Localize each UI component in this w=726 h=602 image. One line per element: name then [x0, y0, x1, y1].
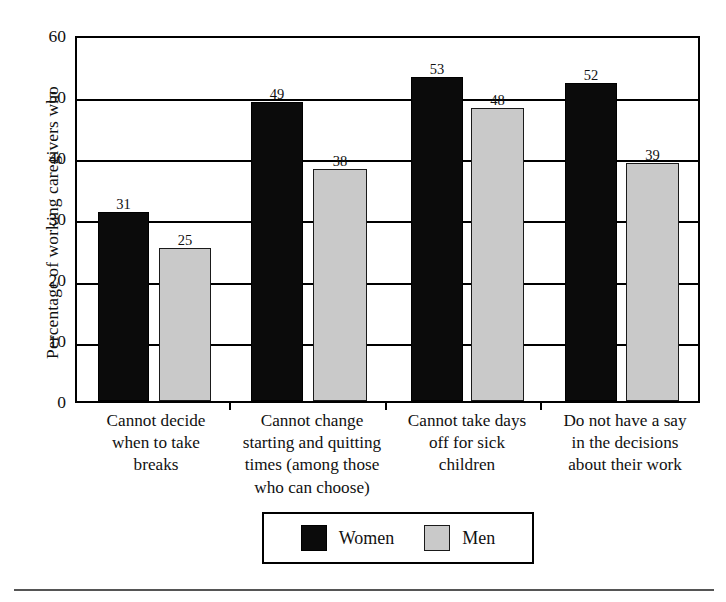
category-line: breaks [82, 454, 230, 476]
bar-value-label: 25 [178, 233, 193, 248]
bar-women-cannot-change-times[interactable]: 49 [251, 102, 303, 401]
category-line: Cannot decide [82, 410, 230, 432]
category-line: Cannot change [232, 410, 392, 432]
bar-men-cannot-change-times[interactable]: 38 [313, 169, 367, 401]
x-axis-tick-3 [540, 401, 542, 410]
bar-value-label: 49 [270, 87, 285, 102]
bar-men-cannot-decide-breaks[interactable]: 25 [159, 248, 211, 401]
category-line: in the decisions [546, 432, 704, 454]
bar-women-no-say-in-decisions[interactable]: 52 [565, 83, 617, 401]
bar-value-label: 39 [645, 148, 660, 163]
category-label-cannot-take-days-off: Cannot take days off for sick children [392, 410, 542, 477]
category-label-cannot-decide-breaks: Cannot decide when to take breaks [82, 410, 230, 477]
legend-item-women[interactable]: Women [301, 525, 395, 551]
y-tick-10: 10 [24, 333, 66, 351]
bar-women-cannot-take-days-off[interactable]: 53 [411, 77, 463, 401]
y-tick-50: 50 [24, 89, 66, 107]
x-axis-tick-2 [385, 401, 387, 410]
category-line: who can choose) [232, 477, 392, 499]
x-axis-tick-1 [229, 401, 231, 410]
chart-legend: Women Men [262, 512, 534, 564]
category-line: Cannot take days [392, 410, 542, 432]
bar-men-no-say-in-decisions[interactable]: 39 [626, 163, 679, 401]
bar-value-label: 53 [430, 62, 445, 77]
bar-value-label: 52 [584, 68, 599, 83]
y-tick-30: 30 [24, 211, 66, 229]
y-tick-40: 40 [24, 150, 66, 168]
bar-men-cannot-take-days-off[interactable]: 48 [471, 108, 524, 401]
bar-value-label: 48 [490, 93, 505, 108]
y-tick-0: 0 [24, 394, 66, 412]
legend-label-women: Women [339, 529, 395, 547]
category-line: when to take [82, 432, 230, 454]
legend-label-men: Men [462, 529, 495, 547]
bar-women-cannot-decide-breaks[interactable]: 31 [98, 212, 149, 401]
bar-value-label: 31 [116, 197, 131, 212]
gray-square-swatch-icon [424, 525, 450, 551]
y-tick-20: 20 [24, 272, 66, 290]
bottom-divider-rule [14, 589, 714, 591]
bar-value-label: 38 [333, 154, 348, 169]
category-label-cannot-change-times: Cannot change starting and quitting time… [232, 410, 392, 499]
category-label-no-say-in-decisions: Do not have a say in the decisions about… [546, 410, 704, 477]
legend-item-men[interactable]: Men [424, 525, 495, 551]
y-tick-60: 60 [24, 28, 66, 46]
bar-chart-figure: Percentage of working caregivers who 60 … [0, 0, 726, 602]
black-square-swatch-icon [301, 525, 327, 551]
category-line: starting and quitting [232, 432, 392, 454]
category-line: off for sick [392, 432, 542, 454]
category-line: about their work [546, 454, 704, 476]
category-line: children [392, 454, 542, 476]
plot-area: 31 25 49 38 53 48 52 39 [75, 36, 700, 403]
category-line: times (among those [232, 454, 392, 476]
category-line: Do not have a say [546, 410, 704, 432]
